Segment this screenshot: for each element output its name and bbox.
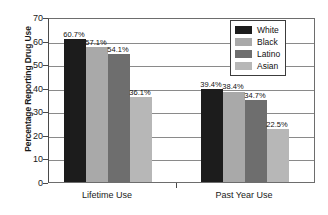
bar-value-label: 38.4% xyxy=(222,82,243,91)
y-tick-mark xyxy=(43,18,48,19)
legend-swatch-icon xyxy=(235,38,252,46)
y-tick-mark xyxy=(43,65,48,66)
bar-value-label: 60.7% xyxy=(63,30,84,39)
bar xyxy=(267,129,289,182)
legend-label: Black xyxy=(257,36,278,48)
bar xyxy=(201,89,223,182)
legend-label: Latino xyxy=(257,48,280,60)
bar xyxy=(223,92,245,183)
x-tick-mark xyxy=(176,183,177,188)
legend: WhiteBlackLatinoAsian xyxy=(230,20,286,76)
legend-label: Asian xyxy=(257,60,278,72)
y-tick-mark xyxy=(43,42,48,43)
y-tick-mark xyxy=(43,89,48,90)
bar xyxy=(130,97,152,182)
bar-value-label: 54.1% xyxy=(107,45,128,54)
y-tick-label: 0 xyxy=(3,178,43,188)
bar xyxy=(108,54,130,182)
bar-value-label: 36.1% xyxy=(129,88,150,97)
y-tick-mark xyxy=(43,136,48,137)
legend-swatch-icon xyxy=(235,62,252,70)
y-tick-mark xyxy=(43,112,48,113)
y-tick-label: 30 xyxy=(3,107,43,117)
y-tick-mark xyxy=(43,183,48,184)
bar-chart: Percentage Reporting Drug Use 0102030405… xyxy=(0,0,328,215)
legend-label: White xyxy=(257,24,279,36)
legend-item-white[interactable]: White xyxy=(235,24,280,36)
bar-value-label: 22.5% xyxy=(266,120,287,129)
x-group-label: Lifetime Use xyxy=(82,190,132,200)
bar xyxy=(64,39,86,182)
y-tick-mark xyxy=(43,159,48,160)
bar xyxy=(245,100,267,182)
bar-value-label: 57.1% xyxy=(85,38,106,47)
y-tick-label: 50 xyxy=(3,60,43,70)
y-tick-label: 10 xyxy=(3,154,43,164)
y-tick-label: 60 xyxy=(3,37,43,47)
y-tick-label: 70 xyxy=(3,13,43,23)
y-tick-label: 20 xyxy=(3,131,43,141)
legend-item-asian[interactable]: Asian xyxy=(235,60,280,72)
legend-item-black[interactable]: Black xyxy=(235,36,280,48)
bar xyxy=(86,47,108,182)
legend-item-latino[interactable]: Latino xyxy=(235,48,280,60)
bar-value-label: 34.7% xyxy=(244,91,265,100)
y-tick-label: 40 xyxy=(3,84,43,94)
legend-swatch-icon xyxy=(235,26,252,34)
bar-value-label: 39.4% xyxy=(200,80,221,89)
x-group-label: Past Year Use xyxy=(215,190,272,200)
legend-swatch-icon xyxy=(235,50,252,58)
